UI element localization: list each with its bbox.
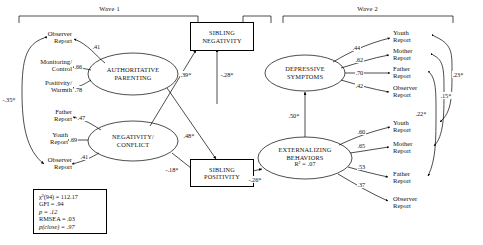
box-line-2: POSITIVITY: [204, 173, 240, 180]
indicator-line-2: Report: [20, 115, 72, 122]
latent-externalizing-behaviors: EXTERNALIZING BEHAVIORS R² = .07: [258, 146, 352, 169]
indicator-line-2: Report: [393, 72, 439, 79]
indicator-nc-youth: Youth Report: [20, 131, 68, 146]
indicator-line-1: Mother: [393, 47, 439, 54]
indicator-ds-youth: Youth Report: [393, 29, 439, 44]
coef-parenting-to-sibneg: -.28*: [220, 71, 234, 78]
wave2-bracket: [243, 16, 453, 23]
loading-ds-observer: .42: [355, 82, 364, 89]
loading-ap-observer: .41: [92, 43, 101, 50]
indicator-line-1: Youth: [20, 131, 68, 138]
latent-line-2: PARENTING: [88, 74, 178, 82]
loading-nc-father: .47: [77, 114, 86, 121]
indicator-line-2: Report: [393, 202, 439, 209]
indicator-line-1: Father: [393, 170, 439, 177]
box-sibling-negativity: SIBLING NEGATIVITY: [190, 22, 254, 51]
wave-2-label: Wave 2: [320, 5, 415, 12]
path-diagram-canvas: Wave 1 Wave 2 Observer Report Monitoring…: [0, 0, 483, 245]
arrow-eb-father: [348, 167, 388, 177]
indicator-line-2: Report: [20, 138, 68, 145]
loading-eb-youth: .60: [357, 128, 366, 135]
indicator-line-1: Youth: [393, 119, 439, 126]
indicator-line-1: Observer: [16, 30, 72, 37]
latent-line-2: CONFLICT: [88, 141, 178, 149]
loading-nc-youth: .69: [69, 136, 78, 143]
fit-rmsea: RMSEA = .03: [39, 215, 102, 223]
coef-parenting-to-sibpos: .48*: [183, 132, 195, 139]
coef-negativity-to-sibneg: .39*: [180, 71, 192, 78]
loading-nc-observer: .41: [80, 153, 89, 160]
wave-1-label: Wave 1: [62, 5, 157, 12]
fit-statistics-box: χ²(94) = 112.17 GFI = .94 p = .12 RMSEA …: [33, 189, 107, 234]
indicator-line-1: Father: [20, 108, 72, 115]
coef-residual-youth: .23*: [452, 71, 464, 78]
path-parenting-sibpos: [167, 88, 216, 159]
indicator-line-2: Report: [393, 36, 439, 43]
indicator-eb-youth: Youth Report: [393, 119, 439, 134]
wave1-bracket: [19, 16, 198, 23]
loading-ds-youth: .44: [352, 44, 361, 51]
latent-authoritative-parenting: AUTHORITATIVE PARENTING: [88, 66, 178, 81]
indicator-eb-father: Father Report: [393, 170, 439, 185]
indicator-line-2: Report: [393, 54, 439, 61]
indicator-line-2: Report: [393, 126, 439, 133]
indicator-ds-father: Father Report: [393, 65, 439, 80]
coef-residual-mother: .15*: [440, 92, 452, 99]
loading-eb-mother: .65: [357, 142, 366, 149]
indicator-ap-positivity: Positivity/ Warmth: [12, 79, 72, 94]
indicator-line-2: Report: [393, 147, 439, 154]
latent-negativity-conflict: NEGATIVITY/ CONFLICT: [88, 133, 178, 148]
latent-r-squared: R² = .07: [258, 161, 352, 169]
indicator-line-2: Report: [16, 37, 72, 44]
loading-ds-mother: .62: [355, 56, 364, 63]
indicator-ds-mother: Mother Report: [393, 47, 439, 62]
fit-gfi: GFI = .94: [39, 200, 102, 208]
latent-line-1: EXTERNALIZING: [258, 146, 352, 154]
indicator-line-2: Report: [393, 177, 439, 184]
latent-line-1: NEGATIVITY/: [88, 133, 178, 141]
indicator-line-2: Control: [12, 65, 72, 72]
fit-chi-square: χ²(94) = 112.17: [39, 193, 102, 201]
indicator-line-1: Observer: [393, 195, 439, 202]
box-line-2: NEGATIVITY: [202, 37, 241, 44]
indicator-eb-observer: Observer Report: [393, 195, 439, 210]
arrow-eb-mother: [350, 147, 389, 153]
path-negativity-sibneg: [150, 50, 196, 126]
indicator-line-1: Father: [393, 65, 439, 72]
box-line-1: SIBLING: [209, 166, 235, 173]
coef-negativity-to-sibpos: -.18*: [165, 166, 179, 173]
indicator-nc-observer: Observer Report: [16, 156, 72, 171]
loading-eb-observer: .37: [357, 181, 366, 188]
indicator-ap-observer: Observer Report: [16, 30, 72, 45]
latent-line-1: DEPRESSIVE: [260, 65, 350, 73]
coef-depressive-to-externalizing: .50*: [288, 112, 300, 119]
fit-p-value: p = .12: [39, 208, 102, 216]
indicator-ds-observer: Observer Report: [393, 84, 439, 99]
coef-parenting-negativity-correlation: -.35*: [2, 96, 16, 103]
indicator-line-1: Positivity/: [12, 79, 72, 86]
loading-ap-monitoring: .66: [74, 63, 83, 70]
indicator-line-1: Observer: [16, 156, 72, 163]
indicator-line-1: Youth: [393, 29, 439, 36]
loading-eb-father: .53: [357, 163, 366, 170]
indicator-line-2: Report: [16, 163, 72, 170]
coef-residual-father: .22*: [415, 110, 427, 117]
box-line-1: SIBLING: [209, 29, 235, 36]
indicator-eb-mother: Mother Report: [393, 140, 439, 155]
latent-line-2: SYMPTOMS: [260, 73, 350, 81]
coef-sibpos-to-externalizing: -.26*: [248, 176, 262, 183]
arrow-ds-observer: [341, 80, 389, 92]
indicator-nc-father: Father Report: [20, 108, 72, 123]
indicator-line-1: Monitoring/: [12, 58, 72, 65]
latent-line-1: AUTHORITATIVE: [88, 66, 178, 74]
latent-line-2: BEHAVIORS: [258, 154, 352, 162]
loading-ap-positivity: .78: [74, 86, 83, 93]
indicator-line-2: Report: [393, 91, 439, 98]
box-sibling-positivity: SIBLING POSITIVITY: [190, 159, 254, 187]
indicator-ap-monitoring: Monitoring/ Control: [12, 58, 72, 73]
latent-depressive-symptoms: DEPRESSIVE SYMPTOMS: [260, 65, 350, 80]
indicator-line-2: Warmth: [12, 86, 72, 93]
indicator-line-1: Mother: [393, 140, 439, 147]
loading-ds-father: .70: [355, 69, 364, 76]
indicator-line-1: Observer: [393, 84, 439, 91]
